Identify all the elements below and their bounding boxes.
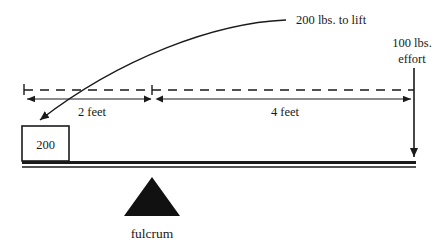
load-box-label: 200: [36, 138, 55, 152]
effort-label-line2: effort: [398, 52, 426, 66]
dimension-load-arm: [27, 96, 152, 103]
effort-label-line1: 100 lbs.: [392, 36, 432, 50]
dimension-load-arm-label: 2 feet: [78, 105, 107, 119]
curved-arrow-icon: [40, 20, 286, 120]
dimension-effort-arm-label: 4 feet: [271, 105, 300, 119]
load-callout-arrow-group: [40, 20, 286, 120]
dimension-load-arm-inner-arrowhead: [144, 96, 152, 103]
dimension-effort-arm: [156, 96, 412, 103]
dimension-effort-arm-inner-arrowhead: [156, 96, 164, 103]
fulcrum-label: fulcrum: [131, 226, 174, 241]
load-callout-label: 200 lbs. to lift: [296, 13, 367, 27]
triangle-icon: [124, 177, 180, 216]
lever-beam: [22, 163, 416, 168]
lever-diagram: 200 lbs. to lift 100 lbs. effort 2 feet …: [0, 0, 442, 247]
diagram-canvas: 200 lbs. to lift 100 lbs. effort 2 feet …: [0, 0, 442, 247]
